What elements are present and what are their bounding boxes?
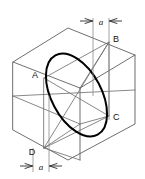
vertex-label-a: A bbox=[32, 70, 38, 80]
vertex-label-b: B bbox=[113, 34, 119, 44]
top-dimension-label: a bbox=[99, 17, 104, 27]
vertex-label-d: D bbox=[29, 147, 36, 157]
vertex-label-c: C bbox=[113, 112, 120, 122]
isometric-cube-diagram: a a A B C D bbox=[0, 0, 145, 179]
bottom-dimension-label: a bbox=[39, 162, 44, 172]
box-outline bbox=[13, 28, 135, 160]
technical-drawing-figure: a a A B C D bbox=[0, 0, 145, 179]
